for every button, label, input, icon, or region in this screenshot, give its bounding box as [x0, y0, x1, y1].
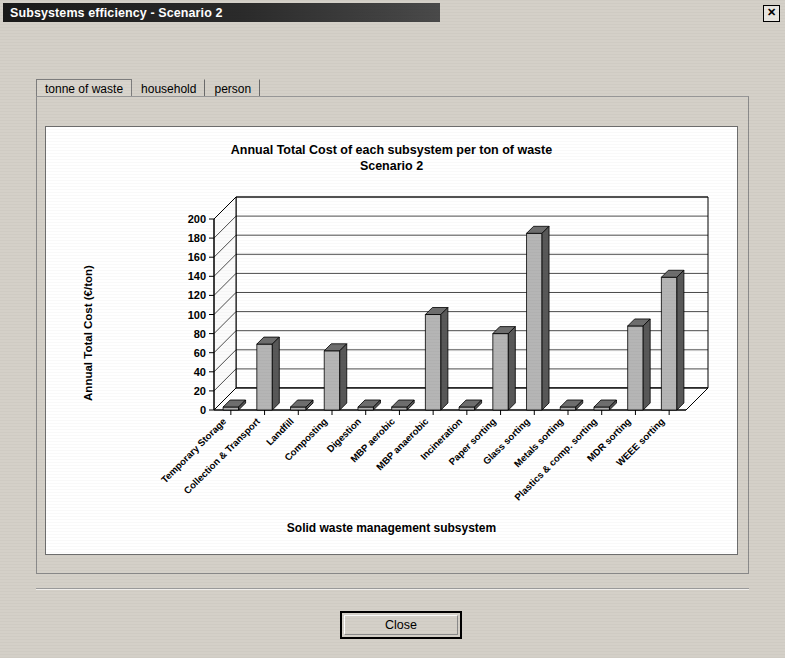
- tab-strip: tonne of waste household person: [36, 78, 260, 97]
- window-title: Subsystems efficiency - Scenario 2: [10, 6, 223, 20]
- y-axis-tick-label: 40: [194, 366, 206, 378]
- y-axis-tick-label: 120: [188, 289, 206, 301]
- y-axis-tick-label: 160: [188, 251, 206, 263]
- bar-front-face: [392, 407, 408, 410]
- bar-side-face: [272, 337, 279, 410]
- bar-14: [661, 270, 684, 410]
- bar-13: [628, 319, 651, 410]
- bar-4: [324, 344, 347, 410]
- x-axis-category-label: Temporary Storage: [159, 416, 228, 485]
- tab-tonne-of-waste[interactable]: tonne of waste: [36, 79, 132, 97]
- bar-front-face: [661, 277, 677, 410]
- title-bar: Subsystems efficiency - Scenario 2: [3, 3, 440, 22]
- application-window: Subsystems efficiency - Scenario 2 ✕ ton…: [0, 0, 785, 658]
- bar-front-face: [358, 407, 374, 410]
- chart-panel: Annual Total Cost of each subsystem per …: [45, 126, 738, 555]
- y-axis-tick-label: 0: [200, 404, 206, 416]
- bar-7: [425, 308, 448, 411]
- bar-front-face: [493, 334, 509, 410]
- bar-side-face: [340, 344, 347, 410]
- y-axis-tick-label: 180: [188, 232, 206, 244]
- bar-front-face: [257, 344, 273, 410]
- bar-10: [527, 226, 550, 410]
- y-axis-tick-label: 200: [188, 213, 206, 225]
- bar-front-face: [324, 351, 340, 410]
- bar-front-face: [527, 233, 543, 410]
- bar-2: [257, 337, 280, 410]
- bar-side-face: [508, 327, 515, 410]
- bar-front-face: [425, 315, 441, 411]
- close-button[interactable]: Close: [340, 611, 462, 639]
- bar-side-face: [441, 308, 448, 411]
- tab-person[interactable]: person: [205, 79, 260, 97]
- bar-side-face: [677, 270, 684, 410]
- bar-front-face: [628, 326, 644, 410]
- y-axis-tick-label: 140: [188, 270, 206, 282]
- bar-9: [493, 327, 516, 410]
- bar-front-face: [560, 407, 576, 410]
- bar-side-face: [542, 226, 549, 410]
- y-axis-tick-label: 60: [194, 347, 206, 359]
- bar-front-face: [459, 407, 475, 410]
- y-axis-tick-label: 20: [194, 385, 206, 397]
- bar-front-face: [223, 407, 239, 410]
- footer-divider: [36, 588, 749, 590]
- close-icon[interactable]: ✕: [763, 5, 780, 22]
- y-axis-tick-label: 100: [188, 309, 206, 321]
- bar-front-face: [594, 407, 610, 410]
- bar-side-face: [643, 319, 650, 410]
- tab-household[interactable]: household: [132, 79, 205, 97]
- bar-chart-plot: 020406080100120140160180200Temporary Sto…: [46, 127, 739, 556]
- bar-front-face: [291, 407, 307, 410]
- y-axis-tick-label: 80: [194, 328, 206, 340]
- close-button-label: Close: [344, 615, 458, 635]
- x-axis-category-label: Landfill: [264, 416, 296, 448]
